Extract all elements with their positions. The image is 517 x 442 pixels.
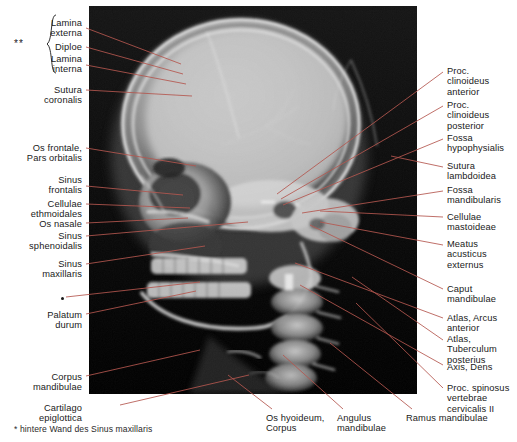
label-proc-clinoideus-anterior: Proc. clinoideus anterior: [447, 66, 489, 97]
double-asterisk-marker: **: [14, 38, 24, 49]
label-atlas-tuberculum-posterius: Atlas, Tuberculum posterius: [447, 334, 497, 365]
label-os-hyoideum-corpus: Os hyoideum, Corpus: [266, 413, 325, 434]
label-fossa-hypophysialis: Fossa hypophysialis: [447, 133, 504, 154]
label-lamina-externa: Lamina externa: [50, 18, 82, 39]
label-atlas-arcus-anterior: Atlas, Arcus anterior: [447, 313, 497, 334]
label-palatum-durum: Palatum durum: [47, 310, 82, 331]
footnote-text: * hintere Wand des Sinus maxillaris: [14, 424, 152, 434]
label-cellulae-mastoideae: Cellulae mastoideae: [447, 212, 496, 233]
label-sutura-lambdoidea: Sutura lambdoidea: [447, 161, 496, 182]
radiograph-canvas: [89, 6, 417, 394]
label-meatus-acusticus-externus: Meatus acusticus externus: [447, 239, 487, 270]
label-sutura-coronalis: Sutura coronalis: [44, 85, 82, 106]
label-lamina-interna: Lamina interna: [51, 54, 82, 75]
label-cartilago-epiglottica: Cartilago epiglottica: [0, 403, 82, 424]
label-sinus-maxillaris: Sinus maxillaris: [42, 259, 82, 280]
skull-radiograph-image: [89, 6, 417, 394]
label-os-nasale: Os nasale: [39, 219, 82, 229]
sinus-maxillaris-wall-marker: [61, 297, 64, 300]
label-proc-spinosus-vert-cerv-ii: Proc. spinosus vertebrae cervicalis II: [447, 383, 509, 414]
label-sinus-frontalis: Sinus frontalis: [49, 175, 82, 196]
label-fossa-mandibularis: Fossa mandibularis: [447, 185, 501, 206]
label-caput-mandibulae: Caput mandibulae: [447, 284, 496, 305]
annotated-radiograph-figure: ** Lamina externaDiploeLamina internaSut…: [0, 0, 517, 442]
label-angulus-mandibulae: Angulus mandibulae: [337, 413, 386, 434]
label-corpus-mandibulae: Corpus mandibulae: [33, 372, 82, 393]
label-cellulae-ethmoidales: Cellulae ethmoidales: [31, 199, 82, 220]
label-diploe: Diploe: [55, 42, 82, 52]
label-ramus-mandibulae: Ramus mandibulae: [406, 413, 488, 423]
label-os-frontale: Os frontale, Pars orbitalis: [27, 143, 82, 164]
label-axis-dens: Axis, Dens: [447, 362, 492, 372]
label-sinus-sphenoidalis: Sinus sphenoidalis: [29, 231, 82, 252]
label-proc-clinoideus-posterior: Proc. clinoideus posterior: [447, 100, 489, 131]
